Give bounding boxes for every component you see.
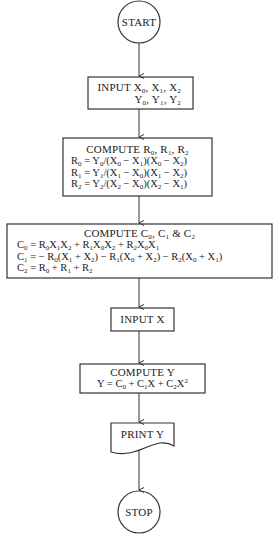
node-equation: Y = C0 + C1X + C2X2 <box>80 379 205 390</box>
node-equation: R0 = Y0/(X0 − X1)(X0 − X2) <box>63 156 212 167</box>
node-compute-y-label: COMPUTE YY = C0 + C1X + C2X2 <box>80 364 205 393</box>
node-equation: C0 = R0X1X2 + R1X0X2 + R2X0X1 <box>7 240 272 251</box>
node-title: START <box>118 17 160 28</box>
node-equation: Y0, Y1, Y2 <box>88 94 193 105</box>
node-compute-r-label: COMPUTE R0, R1, R2R0 = Y0/(X0 − X1)(X0 −… <box>63 138 212 196</box>
node-title: INPUT X <box>111 314 174 325</box>
node-stop-label: STOP <box>118 491 160 533</box>
node-title: COMPUTE C0, C1 & C2 <box>7 228 272 239</box>
node-title: STOP <box>118 507 160 518</box>
node-input-x-label: INPUT X <box>111 308 174 331</box>
node-equation: C2 = R0 + R1 + R2 <box>7 263 272 274</box>
node-equation: C1 = − R0(X1 + X2) − R1(X0 + X2) − R2(X0… <box>7 252 272 263</box>
node-title: COMPUTE R0, R1, R2 <box>63 144 212 155</box>
node-equation: R1 = Y1/(X1 − X0)(X1 − X2) <box>63 168 212 179</box>
node-equation: R2 = Y2/(X2 − X0)(X2 − X1) <box>63 179 212 190</box>
node-print-y-label: PRINT Y <box>111 423 174 446</box>
node-compute-c-label: COMPUTE C0, C1 & C2C0 = R0X1X2 + R1X0X2 … <box>7 224 272 278</box>
node-input-points-label: INPUT X0, X1, X2Y0, Y1, Y2 <box>88 77 193 109</box>
node-start-label: START <box>118 1 160 43</box>
node-title: PRINT Y <box>111 429 174 440</box>
node-title: INPUT X0, X1, X2 <box>88 82 193 93</box>
